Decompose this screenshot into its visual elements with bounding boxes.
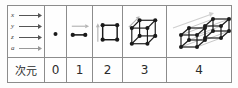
point-figure [45,7,66,57]
dimension-labels-row: 次元 0 1 2 3 4 [8,58,231,82]
figure-cell-dimension-3 [123,6,167,57]
cube-figure [123,7,166,57]
line-segment-figure [67,7,92,57]
dimensions-table-figure: x y [0,0,238,88]
axis-row-x: x [11,10,42,21]
dimension-cell-3: 3 [123,58,167,82]
dimension-header-label: 次元 [15,62,37,78]
dimension-value-3: 3 [141,64,149,76]
dimension-cell-1: 1 [67,58,93,82]
tesseract-figure [167,7,231,57]
dimension-row-header: 次元 [8,58,45,82]
extrusion-arrow-icon [72,24,89,28]
right-arrow-icon [18,34,42,41]
extrusion-arrow-icon [96,23,100,41]
square-figure [93,7,122,57]
axis-legend-cell: x y [8,6,45,57]
right-arrow-icon [18,12,42,19]
right-arrow-icon [18,45,42,52]
figures-row: x y [8,6,231,58]
axis-row-y: y [11,21,42,32]
dimension-value-0: 0 [52,64,60,76]
axis-label-a: a [11,43,18,54]
figure-cell-dimension-2 [93,6,123,57]
figure-cell-dimension-0 [45,6,67,57]
axis-label-z: z [11,32,18,43]
axis-legend: x y [8,6,44,57]
dimension-cell-0: 0 [45,58,67,82]
axis-row-z: z [11,32,42,43]
dimension-value-1: 1 [76,64,84,76]
figure-cell-dimension-4 [167,6,231,57]
axis-label-y: y [11,21,18,32]
dimension-value-4: 4 [195,64,203,76]
dimension-value-2: 2 [104,64,112,76]
axis-label-x: x [11,10,18,21]
axis-row-a: a [11,43,42,54]
dimension-cell-2: 2 [93,58,123,82]
right-arrow-icon [18,23,42,30]
dimension-cell-4: 4 [167,58,231,82]
figure-cell-dimension-1 [67,6,93,57]
dimensions-table: x y [7,5,232,83]
